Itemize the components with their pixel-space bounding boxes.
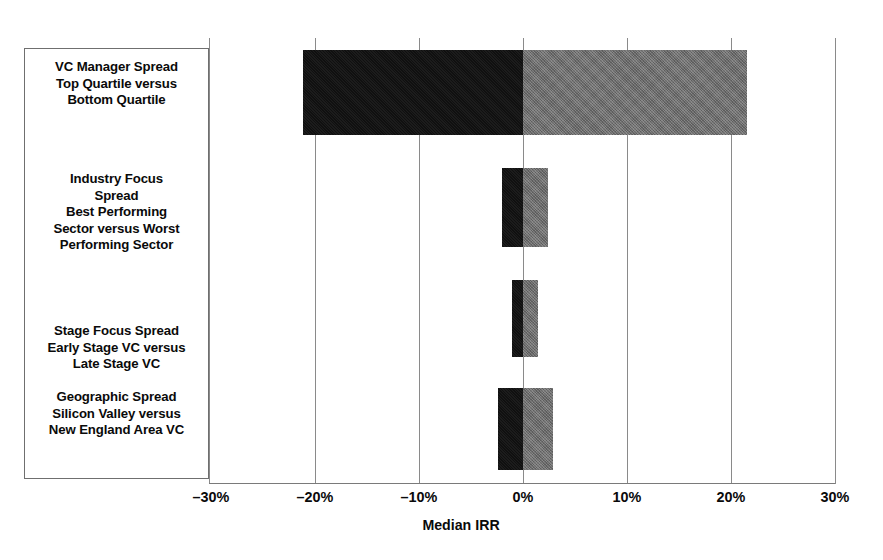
- bar-segment-negative: [498, 388, 523, 470]
- bar-segment-negative: [502, 168, 523, 247]
- category-label-line: Bottom Quartile: [25, 92, 208, 109]
- bar-segment-positive: [523, 50, 747, 135]
- category-label: Stage Focus SpreadEarly Stage VC versusL…: [25, 323, 208, 373]
- x-axis-tick-label: 20%: [686, 489, 776, 505]
- x-axis-title-text: Median IRR: [422, 517, 499, 533]
- bar-segment-positive: [523, 280, 538, 357]
- category-label-line: Spread: [25, 188, 208, 205]
- category-label-line: Sector versus Worst: [25, 221, 208, 238]
- horizontal-bar-chart: VC Manager SpreadTop Quartile versusBott…: [0, 0, 883, 560]
- category-label-line: Early Stage VC versus: [25, 340, 208, 357]
- category-label-line: VC Manager Spread: [25, 59, 208, 76]
- category-label-line: Performing Sector: [25, 237, 208, 254]
- category-label: VC Manager SpreadTop Quartile versusBott…: [25, 59, 208, 109]
- category-label-line: Late Stage VC: [25, 356, 208, 373]
- category-label-box: VC Manager SpreadTop Quartile versusBott…: [24, 48, 209, 479]
- x-axis-line: [209, 483, 836, 484]
- bar-segment-negative: [303, 50, 523, 135]
- category-label: Geographic SpreadSilicon Valley versusNe…: [25, 389, 208, 439]
- category-label-line: Silicon Valley versus: [25, 406, 208, 423]
- x-axis-tick-label: –10%: [374, 489, 464, 505]
- x-axis-tick-label: 30%: [790, 489, 880, 505]
- bar-segment-negative: [512, 280, 523, 357]
- category-label-line: Industry Focus: [25, 171, 208, 188]
- x-axis-tick-label: 10%: [582, 489, 672, 505]
- x-axis-title: Median IRR: [0, 517, 883, 533]
- plot-right-border: [835, 38, 836, 484]
- bar: [303, 50, 747, 135]
- category-label-line: New England Area VC: [25, 422, 208, 439]
- category-label-line: Geographic Spread: [25, 389, 208, 406]
- bar-segment-positive: [523, 168, 548, 247]
- bar: [502, 168, 548, 247]
- x-axis-tick-label: –20%: [270, 489, 360, 505]
- category-label-line: Best Performing: [25, 204, 208, 221]
- x-axis-tick-label: –30%: [166, 489, 256, 505]
- bar-segment-positive: [523, 388, 553, 470]
- bar: [498, 388, 553, 470]
- category-label: Industry FocusSpreadBest PerformingSecto…: [25, 171, 208, 254]
- category-label-line: Stage Focus Spread: [25, 323, 208, 340]
- x-axis-tick-label: 0%: [478, 489, 568, 505]
- gridline: [209, 38, 210, 483]
- category-label-line: Top Quartile versus: [25, 76, 208, 93]
- bar: [512, 280, 538, 357]
